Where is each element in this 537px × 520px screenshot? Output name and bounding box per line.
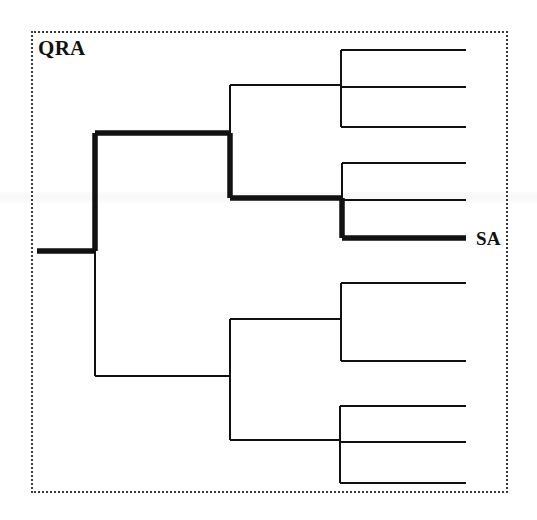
leaf-label-sa: SA — [476, 229, 501, 248]
dendrogram-figure: QRA SA — [0, 0, 537, 520]
dendrogram-tree — [0, 0, 537, 520]
clade-label-qra: QRA — [38, 38, 86, 59]
tree-branch-lines — [37, 50, 466, 483]
